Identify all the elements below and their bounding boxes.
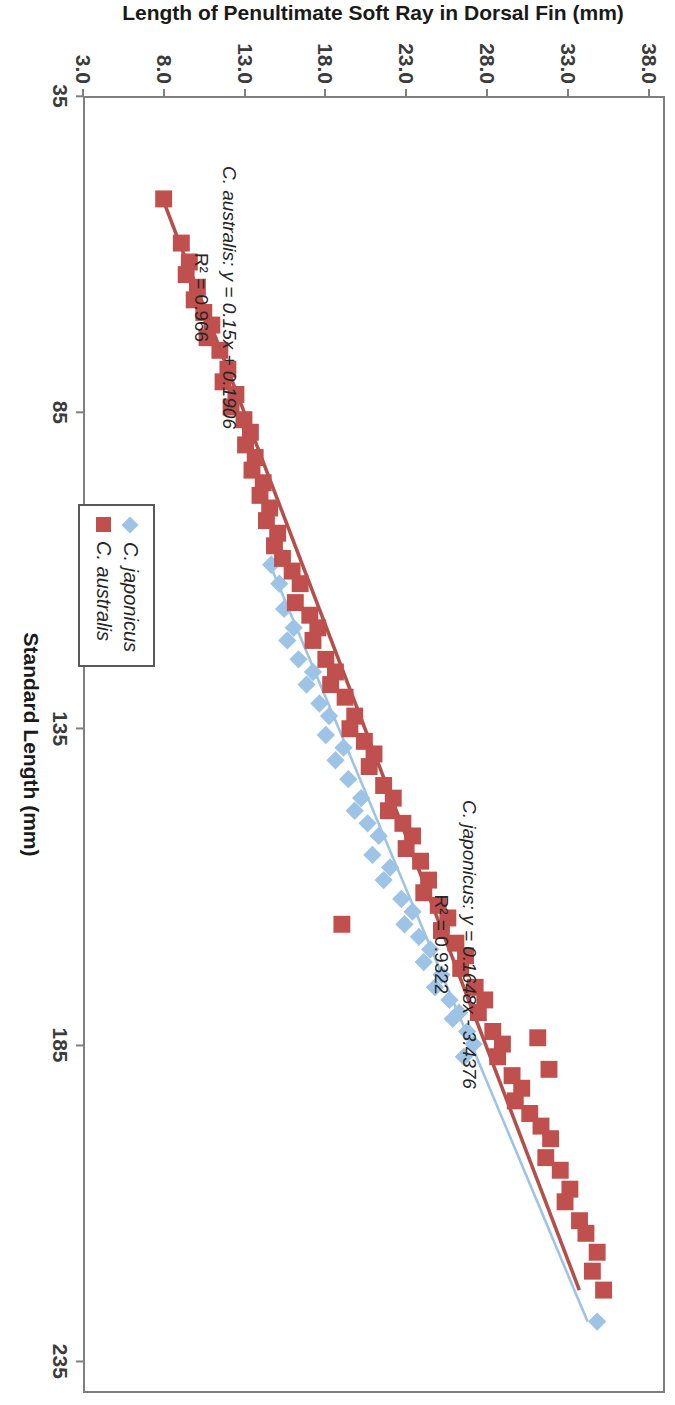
x-axis-ticks: 3585135185235 [49,96,83,1393]
australis-r2-text: R² = 0.966 [188,166,216,429]
x-axis-title: Standard Length (mm) [19,96,43,1393]
japonicus-r2-text: R² = 0.9322 [428,800,456,1089]
x-axis-tick-mark [76,728,83,730]
y-axis-tick-mark [244,89,246,96]
y-axis-tick-label: 33.0 [556,43,580,96]
data-point [595,1282,612,1299]
diamond-marker-icon [122,517,139,534]
data-point [589,1244,606,1261]
data-point [341,720,358,737]
legend-item-australis[interactable]: C. australis [92,517,115,652]
data-point [584,1263,601,1280]
y-axis-tick-label: 23.0 [394,43,418,96]
data-point [410,928,428,946]
data-point [287,594,304,611]
y-axis-tick-mark [325,89,327,96]
legend-label-japonicus: C. japonicus [119,542,142,652]
data-point [322,676,339,693]
data-point [380,802,397,819]
y-axis-tick-mark [486,89,488,96]
data-point [537,1149,554,1166]
y-axis-tick-label: 3.0 [71,55,95,96]
data-point [339,770,357,788]
data-point [529,1029,546,1046]
data-point [363,846,381,864]
plot-frame [83,96,665,1393]
data-point [557,1193,574,1210]
rotated-figure-wrapper: Callanthias 3585135185235 Standard Lengt… [0,0,675,1405]
y-axis-tick-label: 38.0 [637,43,661,96]
x-axis-tick-label: 185 [48,1027,83,1062]
y-axis-ticks: 3.08.013.018.023.028.033.038.0 [83,30,665,96]
data-point [155,190,172,207]
y-axis-tick-mark [163,89,165,96]
data-point [361,758,378,775]
data-point [333,916,350,933]
x-axis-tick-mark [76,1044,83,1046]
y-axis-tick-mark [405,89,407,96]
y-axis-title: Length of Penultimate Soft Ray in Dorsal… [82,1,664,25]
data-point [542,1130,559,1147]
data-point [541,1061,558,1078]
annotation-japonicus-regression: C. japonicus: y = 0.1648x - 3.4376 R² = … [428,800,483,1089]
y-axis-tick-label: 28.0 [475,43,499,96]
y-axis-tick-mark [82,89,84,96]
x-axis-tick-label: 135 [48,711,83,746]
plot-area [85,98,663,1391]
data-point [507,1092,524,1109]
australis-equation-text: C. australis: y = 0.15x + 0.1906 [219,166,240,429]
chart-figure: Callanthias 3585135185235 Standard Lengt… [0,0,675,1405]
data-point [489,1048,506,1065]
scatter-plot-svg [85,98,663,1391]
legend-label-australis: C. australis [92,541,115,641]
x-axis-tick-mark [76,1360,83,1362]
data-point [577,1225,594,1242]
data-point [289,650,307,668]
data-point [337,689,354,706]
japonicus-equation-text: C. japonicus: y = 0.1648x - 3.4376 [459,800,480,1089]
data-point [412,853,429,870]
y-axis-tick-mark [648,89,650,96]
data-point [305,632,322,649]
annotation-australis-regression: C. australis: y = 0.15x + 0.1906 R² = 0.… [188,166,243,429]
y-axis-tick-mark [567,89,569,96]
x-axis-tick-label: 235 [48,1344,83,1379]
y-axis-tick-label: 8.0 [152,55,176,96]
data-point [358,814,376,832]
data-point [398,840,415,857]
data-point [317,726,335,744]
data-point [588,1312,606,1330]
data-point [292,575,309,592]
square-marker-icon [96,517,111,532]
y-axis-tick-label: 18.0 [314,43,338,96]
x-axis-tick-label: 85 [48,401,83,424]
y-axis-tick-label: 13.0 [233,43,257,96]
x-axis-tick-mark [76,411,83,413]
data-point [552,1162,569,1179]
legend-item-japonicus[interactable]: C. japonicus [119,517,142,652]
legend: C. japonicus C. australis [78,504,155,667]
